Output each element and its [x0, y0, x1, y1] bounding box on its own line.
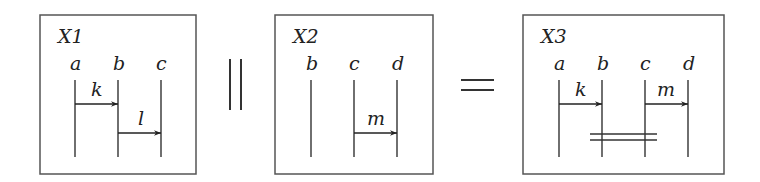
arrow-m-label: m: [657, 78, 675, 100]
box-x3-title: X3: [539, 25, 567, 47]
box-x2-title: X2: [291, 25, 319, 47]
arrow-k-label: k: [575, 78, 587, 100]
wire-label-a: a: [70, 52, 81, 74]
wire-label-b: b: [597, 52, 609, 74]
wire-label-a: a: [554, 52, 565, 74]
wire-label-d: d: [683, 52, 695, 74]
wire-label-c: c: [156, 52, 167, 74]
arrow-m-label: m: [367, 107, 385, 129]
arrow-k-label: k: [91, 78, 103, 100]
wire-label-b: b: [113, 52, 125, 74]
parallel-bar: [590, 134, 657, 140]
box-x1: X1 a b c k l: [40, 15, 196, 174]
parallel-operator: [230, 59, 241, 110]
arrow-l-label: l: [138, 107, 144, 129]
box-x2: X2 b c d m: [275, 15, 433, 174]
box-x1-title: X1: [56, 25, 84, 47]
box-x3: X3 a b c d k m: [523, 15, 724, 174]
wire-label-b: b: [306, 52, 318, 74]
wire-label-d: d: [392, 52, 404, 74]
wire-label-c: c: [640, 52, 651, 74]
wire-label-c: c: [349, 52, 360, 74]
equals-operator: [461, 80, 494, 90]
